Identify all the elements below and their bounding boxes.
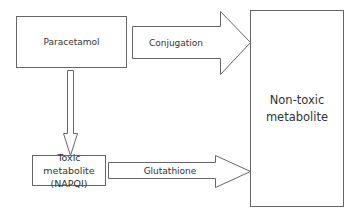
nontoxic-line2: metabolite — [266, 109, 328, 126]
toxic-label: Toxic metabolite (NAPQI) — [32, 155, 106, 186]
toxic-line2: (NAPQI) — [50, 177, 87, 190]
nontoxic-line1: Non-toxic — [270, 92, 325, 109]
glutathione-label: Glutathione — [120, 162, 220, 179]
toxic-line1: Toxic metabolite — [32, 151, 106, 177]
paracetamol-label: Paracetamol — [16, 16, 127, 68]
nontoxic-label: Non-toxic metabolite — [250, 10, 344, 207]
conjugation-label: Conjugation — [132, 26, 220, 59]
down-arrow — [64, 71, 78, 156]
